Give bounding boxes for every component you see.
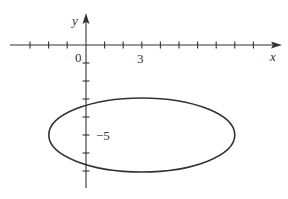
- origin-label: 0: [75, 50, 82, 65]
- x-axis: [10, 42, 276, 49]
- y-tick-label-minus-5: −5: [96, 128, 110, 143]
- ellipse-diagram: y x 0 3 −5: [0, 0, 288, 199]
- y-axis-label: y: [70, 13, 78, 28]
- x-axis-label: x: [269, 49, 276, 64]
- ellipse-curve: [49, 98, 235, 172]
- x-tick-label-3: 3: [137, 51, 144, 66]
